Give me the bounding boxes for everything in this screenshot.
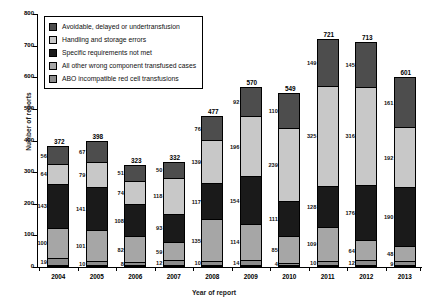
stacked-bar[interactable]: 9219615411414570 bbox=[240, 87, 262, 267]
bar-segment[interactable]: 12 bbox=[164, 261, 184, 266]
bar-segment[interactable]: 135 bbox=[202, 220, 222, 262]
bar-segment[interactable]: 85 bbox=[279, 237, 299, 264]
bar-segment[interactable]: 192 bbox=[395, 128, 415, 187]
stacked-bar[interactable]: 7613911713510477 bbox=[201, 116, 223, 267]
bar-segment[interactable]: 79 bbox=[87, 163, 107, 188]
stacked-bar[interactable]: 1453161766412713 bbox=[355, 42, 377, 267]
bar-segment[interactable]: 10 bbox=[318, 262, 338, 266]
bar-segment[interactable]: 141 bbox=[87, 188, 107, 231]
bar-segment[interactable]: 100 bbox=[48, 229, 68, 260]
segment-value-label: 10 bbox=[195, 260, 201, 266]
bar-total-label: 323 bbox=[125, 157, 147, 164]
bar-total-label: 601 bbox=[395, 69, 417, 76]
bar-segment[interactable]: 114 bbox=[241, 225, 261, 261]
stacked-bar[interactable]: 50118935912332 bbox=[163, 162, 185, 267]
segment-value-label: 64 bbox=[41, 171, 47, 177]
stacked-bar[interactable]: 14932512810910721 bbox=[317, 39, 339, 267]
bar-segment[interactable]: 50 bbox=[164, 163, 184, 179]
legend-item[interactable]: Handling and storage errors bbox=[49, 33, 196, 46]
y-tick-label: 0 bbox=[31, 263, 34, 269]
segment-value-label: 316 bbox=[345, 133, 354, 139]
bar-segment[interactable]: 110 bbox=[279, 94, 299, 128]
bar-segment[interactable]: 64 bbox=[48, 165, 68, 185]
segment-value-label: 12 bbox=[349, 260, 355, 266]
x-tick-mark bbox=[386, 267, 387, 271]
bar-segment[interactable]: 48 bbox=[395, 247, 415, 263]
bar-segment[interactable]: 118 bbox=[164, 179, 184, 215]
bar-segment[interactable]: 101 bbox=[87, 231, 107, 262]
y-tick-label: 500 bbox=[24, 105, 34, 111]
bar-segment[interactable]: 56 bbox=[48, 147, 68, 165]
bar-segment[interactable]: 117 bbox=[202, 184, 222, 220]
bar-segment[interactable]: 4 bbox=[279, 264, 299, 266]
bar-segment[interactable]: 108 bbox=[125, 205, 145, 238]
bar-segment[interactable]: 154 bbox=[241, 177, 261, 225]
legend-item[interactable]: Avoidable, delayed or undertransfusion bbox=[49, 20, 196, 33]
bar-segment[interactable]: 92 bbox=[241, 88, 261, 117]
legend-swatch-icon bbox=[49, 23, 57, 31]
segment-value-label: 108 bbox=[114, 218, 123, 224]
bar-total-label: 721 bbox=[318, 31, 340, 38]
x-tick-label: 2005 bbox=[77, 273, 117, 280]
segment-value-label: 135 bbox=[191, 238, 200, 244]
stacked-bar[interactable]: 566414310019372 bbox=[47, 146, 69, 267]
x-tick-label: 2009 bbox=[231, 273, 271, 280]
bar-segment[interactable]: 12 bbox=[356, 261, 376, 266]
bar-segment[interactable]: 14 bbox=[241, 261, 261, 266]
segment-value-label: 192 bbox=[384, 155, 393, 161]
bar-segment[interactable]: 19 bbox=[48, 259, 68, 266]
bar-total-label: 398 bbox=[87, 133, 109, 140]
stacked-bar[interactable]: 161192190489601 bbox=[394, 77, 416, 267]
bar-segment[interactable]: 128 bbox=[318, 187, 338, 227]
bar-segment[interactable]: 196 bbox=[241, 117, 261, 178]
segment-value-label: 92 bbox=[233, 99, 239, 105]
stacked-bar[interactable]: 5174108828323 bbox=[124, 165, 146, 267]
bar-segment[interactable]: 161 bbox=[395, 78, 415, 128]
bar-segment[interactable]: 190 bbox=[395, 188, 415, 247]
legend-item[interactable]: ABO incompatible red cell transfusions bbox=[49, 72, 196, 85]
bar-segment[interactable]: 145 bbox=[356, 43, 376, 88]
x-tick-label: 2011 bbox=[308, 273, 348, 280]
bar-segment[interactable]: 59 bbox=[164, 243, 184, 261]
legend-item-label: ABO incompatible red cell transfusions bbox=[62, 75, 179, 82]
x-tick-mark bbox=[270, 267, 271, 271]
bar-segment[interactable]: 76 bbox=[202, 117, 222, 141]
bar-segment[interactable]: 111 bbox=[279, 202, 299, 237]
legend-item[interactable]: All other wrong component transfused cas… bbox=[49, 59, 196, 72]
segment-value-label: 76 bbox=[195, 126, 201, 132]
x-tick-label: 2012 bbox=[346, 273, 386, 280]
stacked-bar[interactable]: 677914110110398 bbox=[86, 141, 108, 267]
bar-segment[interactable]: 176 bbox=[356, 186, 376, 241]
bar-segment[interactable]: 8 bbox=[125, 263, 145, 266]
y-tick-label: 800 bbox=[24, 10, 34, 16]
bar-segment[interactable]: 51 bbox=[125, 166, 145, 182]
bar-segment[interactable]: 239 bbox=[279, 129, 299, 203]
segment-value-label: 8 bbox=[121, 261, 124, 267]
stacked-bar[interactable]: 110239111854549 bbox=[278, 93, 300, 267]
bar-segment[interactable]: 67 bbox=[87, 142, 107, 163]
bar-segment[interactable]: 316 bbox=[356, 88, 376, 186]
bar-segment[interactable]: 82 bbox=[125, 237, 145, 262]
bar-segment[interactable]: 93 bbox=[164, 215, 184, 243]
bar-segment[interactable]: 149 bbox=[318, 40, 338, 87]
x-tick-label: 2008 bbox=[192, 273, 232, 280]
bar-segment[interactable]: 139 bbox=[202, 141, 222, 184]
bar-segment[interactable]: 325 bbox=[318, 87, 338, 188]
bar-segment[interactable]: 10 bbox=[202, 262, 222, 266]
segment-value-label: 64 bbox=[349, 248, 355, 254]
x-tick-label: 2013 bbox=[385, 273, 425, 280]
bar-segment[interactable]: 9 bbox=[395, 262, 415, 266]
x-axis-title: Year of report bbox=[0, 289, 428, 296]
bar-segment[interactable]: 10 bbox=[87, 262, 107, 266]
segment-value-label: 143 bbox=[37, 203, 46, 209]
bar-segment[interactable]: 109 bbox=[318, 228, 338, 262]
bar-segment[interactable]: 143 bbox=[48, 185, 68, 229]
bar-segment[interactable]: 74 bbox=[125, 182, 145, 205]
legend-item[interactable]: Specific requirements not met bbox=[49, 46, 196, 59]
segment-value-label: 154 bbox=[230, 198, 239, 204]
segment-value-label: 239 bbox=[268, 162, 277, 168]
segment-value-label: 93 bbox=[156, 225, 162, 231]
segment-value-label: 190 bbox=[384, 214, 393, 220]
stacked-bar-chart: Number of reports Year of report 0100200… bbox=[0, 0, 428, 305]
bar-segment[interactable]: 64 bbox=[356, 241, 376, 262]
